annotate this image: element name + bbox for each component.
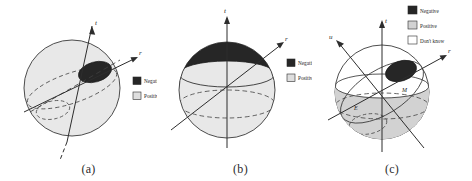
panel-a-caption: (a) bbox=[0, 162, 167, 177]
panel-b-axis-r-label: r bbox=[285, 35, 288, 43]
panel-a-legend-label-negative: Negative bbox=[144, 78, 157, 84]
panel-b: t r Negative Positive (b) bbox=[157, 0, 312, 181]
panel-c-legend-label-positive: Positive bbox=[420, 23, 437, 29]
panel-a-axis-r-label: r bbox=[139, 49, 142, 57]
panel-c-axis-t-label: t bbox=[385, 17, 388, 25]
panel-a-sphere-body bbox=[24, 40, 120, 136]
panel-c-legend-swatch-dont-know bbox=[408, 36, 417, 44]
panel-c: t r u M E Negative Positive Don't know ( bbox=[312, 0, 472, 181]
panel-c-legend-swatch-negative bbox=[408, 6, 417, 14]
sphere-region-figure: t r Negative Positive (a) bbox=[0, 0, 472, 181]
panel-a-legend-swatch-negative bbox=[133, 77, 141, 85]
panel-a-axis-r-arrow bbox=[131, 57, 139, 63]
panel-b-legend-swatch-positive bbox=[287, 74, 295, 82]
panel-c-caption: (c) bbox=[312, 162, 472, 177]
panel-b-axis-t-label: t bbox=[224, 7, 227, 15]
panel-a-axis-t-dashed bbox=[60, 142, 67, 160]
panel-c-point-label-e: E bbox=[353, 105, 358, 111]
panel-b-legend: Negative Positive bbox=[287, 59, 312, 82]
panel-a-legend-label-positive: Positive bbox=[144, 93, 157, 99]
panel-b-legend-label-negative: Negative bbox=[298, 60, 312, 66]
panel-b-legend-label-positive: Positive bbox=[298, 75, 312, 81]
panel-c-legend-swatch-positive bbox=[408, 21, 417, 29]
panel-b-caption: (b) bbox=[157, 162, 318, 177]
panel-a-legend: Negative Positive bbox=[133, 77, 157, 100]
panel-b-axis-t-arrow bbox=[224, 16, 230, 24]
panel-a-axis-t-arrow bbox=[89, 26, 95, 35]
panel-b-legend-swatch-negative bbox=[287, 59, 295, 67]
panel-c-legend: Negative Positive Don't know bbox=[408, 6, 444, 44]
panel-a-legend-swatch-positive bbox=[133, 92, 141, 100]
panel-c-point-label-m: M bbox=[401, 87, 408, 93]
panel-a: t r Negative Positive (a) bbox=[0, 0, 157, 181]
panel-c-axis-u-arrow bbox=[336, 40, 344, 48]
panel-a-axis-t-label: t bbox=[95, 19, 98, 27]
panel-c-legend-label-dont-know: Don't know bbox=[420, 38, 444, 44]
panel-c-axis-r-label: r bbox=[448, 47, 451, 55]
panel-c-axis-u-label: u bbox=[329, 33, 333, 41]
panel-c-legend-label-negative: Negative bbox=[420, 8, 439, 14]
